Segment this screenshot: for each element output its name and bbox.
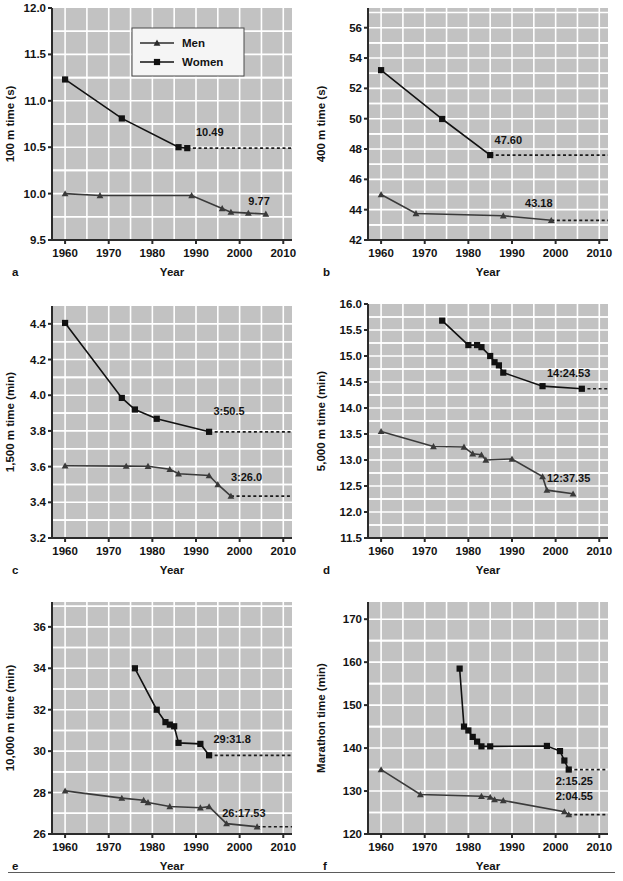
x-tick-label: 2010	[270, 545, 296, 557]
y-axis-f: 120130140150160170	[343, 613, 368, 840]
x-axis-f: 196019701980199020002010	[368, 834, 612, 853]
x-tick-label: 1980	[140, 841, 166, 853]
x-tick-label: 1970	[96, 247, 122, 259]
x-tick-label: 1970	[96, 841, 122, 853]
chart-c: 3.23.43.63.84.04.24.41960197019801990200…	[0, 290, 311, 590]
data-point-women	[478, 344, 484, 350]
y-tick-label: 50	[349, 113, 362, 125]
y-tick-label: 15.0	[340, 350, 362, 362]
panel-letter-b: b	[323, 266, 330, 278]
data-point-women	[566, 766, 572, 772]
data-point-women	[206, 429, 212, 435]
x-axis-e: 196019701980199020002010	[52, 834, 296, 853]
data-point-women	[579, 386, 585, 392]
x-tick-label: 1990	[499, 545, 525, 557]
x-tick-label: 2000	[543, 841, 569, 853]
y-axis-a: 9.510.010.511.011.512.0	[24, 2, 52, 246]
y-axis-e: 262830323436	[33, 621, 52, 840]
legend-marker-women	[154, 59, 160, 65]
data-point-women	[132, 406, 138, 412]
data-annotation: 2:04.55	[556, 790, 593, 802]
data-point-women	[378, 67, 384, 73]
x-axis-title: Year	[160, 564, 185, 576]
y-tick-label: 4.0	[30, 389, 46, 401]
y-axis-title: 1,500 m time (min)	[4, 372, 16, 473]
x-axis-d: 196019701980199020002010	[368, 538, 612, 557]
y-tick-label: 44	[349, 204, 362, 216]
plot-area-e	[52, 602, 292, 834]
panel-f: 1201301401501601701960197019801990200020…	[311, 590, 623, 872]
y-tick-label: 13.5	[340, 428, 363, 440]
x-tick-label: 1960	[368, 545, 394, 557]
x-tick-label: 1980	[140, 247, 166, 259]
y-tick-label: 14.5	[340, 376, 363, 388]
x-tick-label: 1980	[456, 247, 482, 259]
panel-letter-e: e	[12, 860, 18, 872]
y-tick-label: 14.0	[340, 402, 362, 414]
legend-label-men: Men	[182, 37, 205, 49]
panel-letter-d: d	[323, 564, 330, 576]
bottom-divider	[8, 872, 615, 873]
panel-a: 9.510.010.511.011.512.019601970198019902…	[0, 0, 311, 290]
y-tick-label: 160	[343, 656, 362, 668]
x-tick-label: 2000	[227, 841, 253, 853]
data-point-women	[175, 740, 181, 746]
y-tick-label: 4.4	[30, 318, 47, 330]
y-tick-label: 36	[33, 621, 46, 633]
data-annotation: 3:50.5	[213, 405, 244, 417]
data-point-women	[175, 144, 181, 150]
y-tick-label: 32	[33, 704, 46, 716]
data-point-women	[171, 723, 177, 729]
panel-e: 262830323436196019701980199020002010Year…	[0, 590, 311, 872]
y-tick-label: 12.5	[340, 480, 363, 492]
x-tick-label: 1970	[96, 545, 122, 557]
panel-letter-c: c	[12, 564, 19, 576]
data-annotation: 43.18	[525, 197, 553, 209]
y-tick-label: 54	[349, 52, 362, 64]
y-tick-label: 150	[343, 699, 362, 711]
data-point-women	[62, 76, 68, 82]
y-tick-label: 4.2	[30, 354, 46, 366]
y-tick-label: 12.0	[340, 506, 362, 518]
x-tick-label: 1990	[183, 841, 209, 853]
chart-a: 9.510.010.511.011.512.019601970198019902…	[0, 0, 311, 290]
data-point-women	[478, 743, 484, 749]
panel-letter-f: f	[323, 860, 327, 872]
y-tick-label: 3.8	[30, 425, 47, 437]
y-axis-d: 11.512.012.513.013.514.014.515.015.516.0	[340, 298, 368, 544]
x-axis-title: Year	[476, 564, 501, 576]
y-tick-label: 26	[33, 828, 46, 840]
y-tick-label: 11.5	[24, 48, 46, 60]
y-tick-label: 10.0	[24, 188, 46, 200]
x-axis-title: Year	[476, 860, 501, 872]
x-tick-label: 1970	[412, 247, 438, 259]
y-tick-label: 15.5	[340, 324, 363, 336]
data-point-women	[62, 320, 68, 326]
x-axis-b: 196019701980199020002010	[368, 240, 612, 259]
x-tick-label: 1960	[52, 841, 78, 853]
y-tick-label: 12.0	[24, 2, 46, 14]
y-axis-title: 5,000 m time (min)	[315, 371, 327, 472]
data-point-women	[119, 115, 125, 121]
y-tick-label: 42	[349, 234, 362, 246]
data-point-women	[184, 145, 190, 151]
x-tick-label: 2000	[227, 247, 253, 259]
data-annotation: 10.49	[196, 126, 224, 138]
data-annotation: 14:24.53	[547, 367, 590, 379]
chart-f: 1201301401501601701960197019801990200020…	[311, 590, 623, 872]
x-tick-label: 1970	[412, 545, 438, 557]
data-point-women	[487, 152, 493, 158]
x-tick-label: 1990	[499, 247, 525, 259]
y-tick-label: 46	[349, 173, 362, 185]
panel-d: 11.512.012.513.013.514.014.515.015.516.0…	[311, 290, 623, 590]
y-axis-title: 100 m time (s)	[4, 85, 16, 162]
data-annotation: 9.77	[248, 195, 269, 207]
x-axis-a: 196019701980199020002010	[52, 240, 296, 259]
panel-letter-a: a	[12, 266, 19, 278]
data-point-women	[544, 743, 550, 749]
x-axis-title: Year	[160, 266, 185, 278]
legend-label-women: Women	[182, 56, 223, 68]
y-tick-label: 9.5	[30, 234, 47, 246]
data-annotation: 3:26.0	[231, 471, 262, 483]
data-point-women	[465, 727, 471, 733]
